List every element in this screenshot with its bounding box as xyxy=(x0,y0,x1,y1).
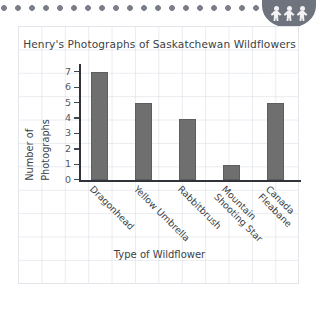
y-tick-label: 0 xyxy=(65,175,71,185)
bar-2 xyxy=(135,103,152,180)
bar-1 xyxy=(91,72,108,180)
x-tick-label-1: Dragonhead xyxy=(88,184,136,232)
x-tick-label-group: DragonheadYellow UmbrellaRabbitbrushMoun… xyxy=(79,184,319,256)
x-axis-title: Type of Wildflower xyxy=(19,249,300,260)
y-tick-4: 4 xyxy=(74,117,79,118)
chart-card: Henry's Photographs of Saskatchewan Wild… xyxy=(18,26,299,284)
bar-3 xyxy=(179,119,196,181)
y-tick-7: 7 xyxy=(74,71,79,72)
y-axis-title-line-1: Number of xyxy=(25,129,35,181)
x-axis-line xyxy=(79,180,301,182)
bar-5 xyxy=(267,103,284,180)
x-tick-label-line: Rabbitbrush xyxy=(176,184,224,232)
y-tick-label: 5 xyxy=(65,98,71,108)
y-axis-line xyxy=(79,64,81,182)
bar-4 xyxy=(223,165,240,180)
badge-figure xyxy=(271,6,282,21)
y-axis-title-line-2: Photographs xyxy=(41,119,51,181)
badge-figure xyxy=(297,6,308,21)
x-tick-label-3: Rabbitbrush xyxy=(176,184,224,232)
x-tick-label-line: Dragonhead xyxy=(88,184,136,232)
y-tick-label: 6 xyxy=(65,82,71,92)
y-tick-3: 3 xyxy=(74,133,79,134)
y-tick-label: 7 xyxy=(65,67,71,77)
people-group-icon xyxy=(262,0,316,28)
badge-figure xyxy=(284,6,295,21)
y-tick-1: 1 xyxy=(74,164,79,165)
badge-figures xyxy=(262,6,316,21)
y-tick-label: 2 xyxy=(65,144,71,154)
y-tick-label: 1 xyxy=(65,160,71,170)
y-tick-5: 5 xyxy=(74,102,79,103)
chart-title: Henry's Photographs of Saskatchewan Wild… xyxy=(19,38,300,50)
y-tick-0: 0 xyxy=(74,179,79,180)
y-tick-label: 4 xyxy=(65,113,71,123)
y-tick-6: 6 xyxy=(74,87,79,88)
y-tick-2: 2 xyxy=(74,148,79,149)
y-tick-label: 3 xyxy=(65,129,71,139)
plot-area: 01234567 xyxy=(79,68,301,182)
